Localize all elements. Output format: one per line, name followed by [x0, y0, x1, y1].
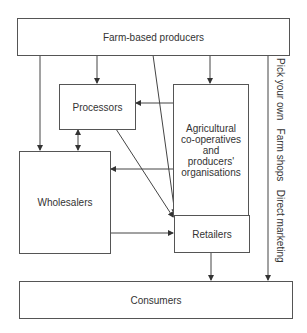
arrow-farm-to-retailers — [153, 55, 175, 214]
node-label: Processors — [72, 102, 122, 113]
direct-channel-label: Pick your own Farm shops Direct marketin… — [275, 58, 286, 263]
node-consumers: Consumers — [19, 281, 293, 319]
node-farm-based-producers: Farm-based producers — [17, 18, 290, 56]
node-label: Consumers — [130, 295, 181, 306]
node-label-line: organisations — [181, 167, 240, 178]
node-label-line: co-operatives — [181, 134, 241, 145]
node-wholesalers: Wholesalers — [19, 151, 111, 254]
node-retailers: Retailers — [174, 215, 250, 253]
node-label: Wholesalers — [37, 197, 92, 208]
node-agricultural-cooperatives: Agricultural co-operatives and producers… — [173, 84, 249, 217]
node-label-line: and — [203, 145, 220, 156]
node-label-line: Agricultural — [186, 123, 236, 134]
node-label-line: producers' — [188, 156, 234, 167]
node-label: Retailers — [192, 229, 231, 240]
node-processors: Processors — [59, 84, 136, 130]
arrow-processors-to-retailers — [116, 129, 173, 217]
node-label: Farm-based producers — [103, 32, 204, 43]
